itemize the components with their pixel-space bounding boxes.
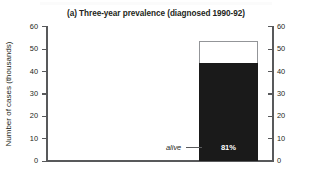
y-tick-right-50 xyxy=(268,49,273,50)
y-tick-label-left-0: 0 xyxy=(34,157,38,164)
y-tick-left-60 xyxy=(42,26,47,27)
y-tick-right-30 xyxy=(268,93,273,94)
x-axis-baseline xyxy=(46,160,273,162)
scan-artifact-band xyxy=(40,2,272,5)
y-tick-right-0 xyxy=(268,161,273,162)
y-tick-label-left-10: 10 xyxy=(30,135,38,142)
y-axis-title: Number of cases (thousands) xyxy=(4,42,13,147)
y-tick-label-left-40: 40 xyxy=(30,68,38,75)
y-tick-label-right-20: 20 xyxy=(277,112,285,119)
y-tick-left-10 xyxy=(42,138,47,139)
chart-title: (a) Three-year prevalence (diagnosed 199… xyxy=(0,9,312,18)
y-tick-right-20 xyxy=(268,116,273,117)
y-tick-label-right-30: 30 xyxy=(277,90,285,97)
bar-data-label-percent: 81% xyxy=(199,144,258,152)
y-tick-left-30 xyxy=(42,93,47,94)
y-tick-left-20 xyxy=(42,116,47,117)
y-tick-left-0 xyxy=(42,161,47,162)
y-tick-label-left-50: 50 xyxy=(30,45,38,52)
y-tick-label-right-60: 60 xyxy=(277,23,285,30)
y-tick-left-40 xyxy=(42,71,47,72)
annotation-label-alive: alive xyxy=(166,144,181,151)
y-tick-label-right-40: 40 xyxy=(277,68,285,75)
chart-figure: (a) Three-year prevalence (diagnosed 199… xyxy=(0,0,312,174)
y-tick-right-40 xyxy=(268,71,273,72)
y-tick-label-left-30: 30 xyxy=(30,90,38,97)
y-tick-left-50 xyxy=(42,49,47,50)
y-tick-label-left-60: 60 xyxy=(30,23,38,30)
y-tick-label-right-0: 0 xyxy=(277,157,281,164)
y-tick-right-60 xyxy=(268,26,273,27)
y-tick-label-right-10: 10 xyxy=(277,135,285,142)
y-tick-right-10 xyxy=(268,138,273,139)
y-tick-label-left-20: 20 xyxy=(30,112,38,119)
y-tick-label-right-50: 50 xyxy=(277,45,285,52)
y-axis-title-container: Number of cases (thousands) xyxy=(1,28,15,160)
annotation-leader-line xyxy=(186,147,202,148)
